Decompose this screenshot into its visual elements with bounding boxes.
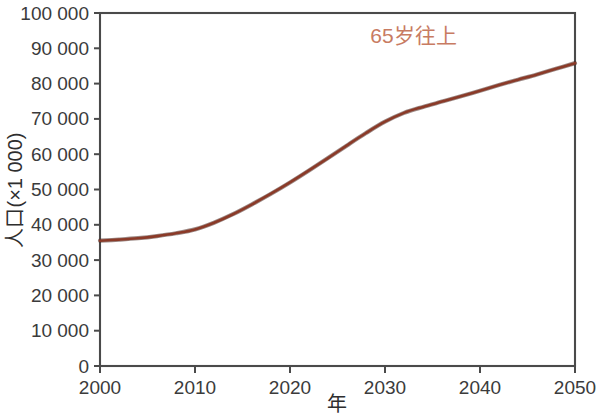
y-tick-label: 70 000 <box>31 108 89 129</box>
x-tick-label: 2020 <box>269 377 311 398</box>
x-tick-label: 2050 <box>554 377 596 398</box>
x-tick-label: 2030 <box>364 377 406 398</box>
y-tick-label: 100 000 <box>20 3 89 24</box>
x-tick-label: 2040 <box>459 377 501 398</box>
x-axis-title: 年 <box>327 393 347 415</box>
y-tick-label: 10 000 <box>31 320 89 341</box>
chart-container: 010 00020 00030 00040 00050 00060 00070 … <box>0 0 598 416</box>
y-tick-label: 20 000 <box>31 285 89 306</box>
plot-frame <box>100 13 575 366</box>
x-tick-label: 2000 <box>79 377 121 398</box>
y-axis: 010 00020 00030 00040 00050 00060 00070 … <box>20 3 100 377</box>
y-tick-label: 30 000 <box>31 250 89 271</box>
x-tick-label: 2010 <box>174 377 216 398</box>
population-projection-line-chart: 010 00020 00030 00040 00050 00060 00070 … <box>0 0 598 416</box>
series-annotation-65-and-over: 65岁往上 <box>370 24 456 47</box>
y-tick-label: 0 <box>78 356 89 377</box>
plot-area <box>100 13 575 366</box>
y-tick-label: 80 000 <box>31 73 89 94</box>
y-tick-label: 90 000 <box>31 38 89 59</box>
y-tick-label: 60 000 <box>31 144 89 165</box>
y-tick-label: 50 000 <box>31 179 89 200</box>
y-axis-title: 人口(×1 000) <box>4 132 26 247</box>
y-tick-label: 40 000 <box>31 214 89 235</box>
